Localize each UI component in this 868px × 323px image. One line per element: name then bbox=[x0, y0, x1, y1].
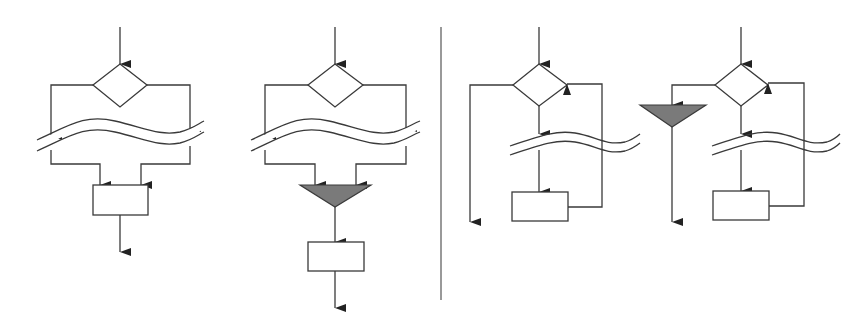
diagram-3 bbox=[470, 27, 640, 222]
break-symbol bbox=[510, 132, 640, 155]
process-box bbox=[93, 185, 148, 215]
merge-triangle bbox=[640, 105, 706, 127]
diagram-1 bbox=[37, 27, 204, 252]
right-merge-line bbox=[356, 146, 406, 185]
merge-triangle bbox=[300, 185, 371, 207]
process-box bbox=[308, 242, 364, 271]
decision-diamond bbox=[308, 64, 363, 107]
right-branch bbox=[363, 85, 406, 128]
process-box bbox=[512, 192, 568, 221]
left-merge-line bbox=[51, 150, 100, 185]
right-merge-line bbox=[141, 146, 190, 185]
decision-diamond bbox=[715, 64, 768, 106]
break-symbol bbox=[37, 119, 204, 151]
exit-branch bbox=[470, 85, 513, 222]
decision-diamond bbox=[513, 64, 567, 106]
process-box bbox=[713, 191, 769, 220]
decision-diamond bbox=[93, 64, 147, 107]
break-symbol bbox=[712, 132, 840, 155]
diagram-4 bbox=[640, 27, 840, 222]
right-branch bbox=[147, 85, 190, 128]
break-symbol bbox=[251, 119, 420, 151]
flowchart-stage bbox=[0, 0, 868, 323]
exit-branch bbox=[672, 85, 715, 105]
left-merge-line bbox=[265, 150, 315, 185]
flowchart-canvas bbox=[0, 0, 868, 323]
diagram-2 bbox=[251, 27, 420, 308]
